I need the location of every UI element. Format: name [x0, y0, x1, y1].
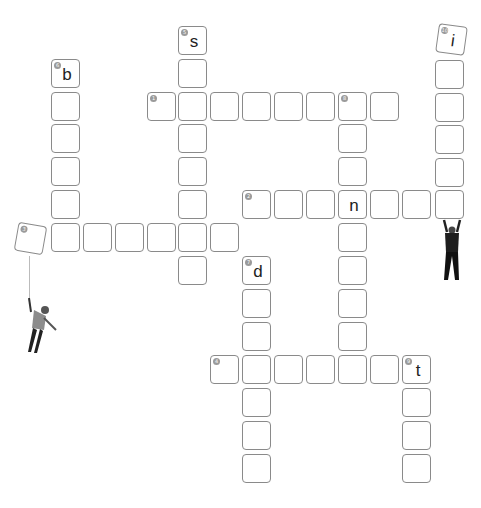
crossword-cell[interactable] — [306, 190, 335, 219]
crossword-cell-clue-1[interactable]: 1 — [147, 92, 176, 121]
crossword-cell[interactable] — [402, 454, 431, 483]
cell-letter: d — [253, 263, 262, 280]
crossword-cell[interactable] — [242, 289, 271, 318]
crossword-cell[interactable] — [51, 124, 80, 153]
crossword-cell[interactable] — [178, 92, 207, 121]
crossword-cell[interactable] — [338, 322, 367, 351]
crossword-cell[interactable] — [306, 355, 335, 384]
cell-letter: t — [416, 362, 421, 379]
crossword-cell[interactable] — [147, 223, 176, 252]
crossword-cell[interactable] — [242, 454, 271, 483]
cell-letter: i — [450, 32, 456, 49]
crossword-cell[interactable] — [51, 157, 80, 186]
crossword-cell-clue-5[interactable]: 5s — [178, 26, 207, 55]
crossword-cell[interactable] — [178, 190, 207, 219]
crossword-cell[interactable] — [274, 190, 303, 219]
crossword-cell[interactable] — [306, 92, 335, 121]
crossword-cell[interactable]: n — [338, 190, 367, 219]
crossword-cell[interactable] — [51, 190, 80, 219]
crossword-cell[interactable] — [338, 289, 367, 318]
clue-number-badge: 2 — [245, 193, 252, 200]
crossword-cell-clue-2[interactable]: 2 — [242, 190, 271, 219]
crossword-cell-clue-6[interactable]: 6b — [51, 59, 80, 88]
crossword-cell[interactable] — [338, 355, 367, 384]
crossword-cell-clue-9[interactable]: 9t — [402, 355, 431, 384]
crossword-cell[interactable] — [242, 92, 271, 121]
crossword-cell[interactable] — [338, 157, 367, 186]
crossword-cell[interactable] — [370, 92, 399, 121]
crossword-board: 5s186b2n7d49t10i3 — [0, 0, 481, 508]
crossword-cell[interactable] — [338, 256, 367, 285]
crossword-cell[interactable] — [51, 92, 80, 121]
cell-letter: n — [349, 197, 358, 214]
crossword-cell[interactable] — [115, 223, 144, 252]
crossword-cell[interactable] — [435, 125, 464, 154]
clue-number-badge: 4 — [213, 358, 220, 365]
crossword-cell[interactable] — [210, 92, 239, 121]
clue-number-badge: 8 — [341, 95, 348, 102]
crossword-cell[interactable] — [242, 322, 271, 351]
crossword-cell[interactable] — [242, 355, 271, 384]
crossword-cell[interactable] — [274, 92, 303, 121]
clue-number-badge: 3 — [20, 225, 28, 233]
crossword-cell-clue-4[interactable]: 4 — [210, 355, 239, 384]
crossword-cell-clue-8[interactable]: 8 — [338, 92, 367, 121]
crossword-cell-clue-3[interactable]: 3 — [14, 222, 48, 256]
crossword-cell[interactable] — [274, 355, 303, 384]
clue-number-badge: 7 — [245, 259, 252, 266]
crossword-cell[interactable] — [435, 158, 464, 187]
clue-number-badge: 9 — [405, 358, 412, 365]
crossword-cell[interactable] — [402, 190, 431, 219]
crossword-cell[interactable] — [435, 60, 464, 89]
crossword-cell[interactable] — [178, 256, 207, 285]
crossword-cell[interactable] — [435, 93, 464, 122]
crossword-cell[interactable] — [178, 157, 207, 186]
crossword-cell-clue-10[interactable]: 10i — [435, 23, 468, 56]
crossword-cell-clue-7[interactable]: 7d — [242, 256, 271, 285]
crossword-cell[interactable] — [83, 223, 112, 252]
cell-letter: s — [190, 33, 199, 50]
hanging-person-figure — [16, 298, 60, 356]
crossword-cell[interactable] — [242, 421, 271, 450]
crossword-cell[interactable] — [435, 190, 464, 219]
cell-letter: b — [62, 66, 71, 83]
clue-number-badge: 5 — [181, 29, 188, 36]
crossword-cell[interactable] — [178, 124, 207, 153]
crossword-cell[interactable] — [210, 223, 239, 252]
crossword-cell[interactable] — [51, 223, 80, 252]
crossword-cell[interactable] — [338, 223, 367, 252]
crossword-cell[interactable] — [178, 59, 207, 88]
crossword-cell[interactable] — [402, 421, 431, 450]
clue-number-badge: 6 — [54, 62, 61, 69]
crossword-cell[interactable] — [178, 223, 207, 252]
crossword-cell[interactable] — [370, 190, 399, 219]
crossword-cell[interactable] — [402, 388, 431, 417]
crossword-cell[interactable] — [370, 355, 399, 384]
clue-number-badge: 1 — [150, 95, 157, 102]
crossword-cell[interactable] — [338, 124, 367, 153]
clue-number-badge: 10 — [441, 27, 449, 35]
crossword-cell[interactable] — [242, 388, 271, 417]
lifting-person-figure — [438, 218, 468, 282]
